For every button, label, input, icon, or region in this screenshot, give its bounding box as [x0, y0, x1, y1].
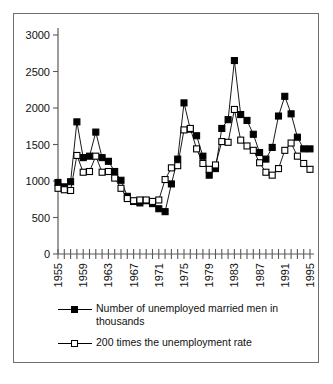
data-point-marker: [168, 165, 174, 171]
data-point-marker: [124, 196, 130, 202]
x-tick-label: 1975: [178, 263, 190, 287]
data-point-marker: [137, 197, 143, 203]
data-point-marker: [225, 117, 231, 123]
data-point-marker: [244, 143, 250, 149]
data-point-marker: [257, 160, 263, 166]
series-1: [55, 58, 313, 215]
data-point-marker: [269, 144, 275, 150]
y-tick-label: 3000: [26, 29, 50, 41]
data-point-marker: [61, 187, 67, 193]
data-point-marker: [150, 198, 156, 204]
data-point-marker: [74, 119, 80, 125]
data-point-marker: [238, 137, 244, 143]
data-point-marker: [263, 156, 269, 162]
series-2: [55, 106, 313, 204]
data-point-marker: [238, 112, 244, 118]
data-point-marker: [206, 172, 212, 178]
data-point-marker: [301, 160, 307, 166]
data-point-marker: [181, 127, 187, 133]
line-chart: 050010001500200025003000 195519591963196…: [14, 14, 320, 298]
data-point-marker: [105, 169, 111, 175]
x-tick-label: 1991: [279, 263, 291, 287]
data-point-marker: [93, 153, 99, 159]
y-tick-label: 500: [32, 212, 50, 224]
data-point-marker: [99, 155, 105, 161]
data-point-marker: [288, 111, 294, 117]
legend-marker-filled-square-icon: [58, 303, 92, 317]
data-point-marker: [213, 162, 219, 168]
data-point-marker: [105, 158, 111, 164]
data-point-marker: [80, 155, 86, 161]
data-point-marker: [219, 139, 225, 145]
data-point-marker: [282, 93, 288, 99]
data-point-marker: [175, 156, 181, 162]
data-point-marker: [112, 169, 118, 175]
data-point-marker: [187, 125, 193, 131]
data-point-marker: [156, 197, 162, 203]
data-point-marker: [294, 134, 300, 140]
x-tick-label: 1955: [52, 263, 64, 287]
figure-frame: 050010001500200025003000 195519591963196…: [13, 13, 319, 363]
chart-plot-area: 050010001500200025003000 195519591963196…: [14, 14, 320, 298]
data-point-marker: [118, 177, 124, 183]
data-point-marker: [231, 58, 237, 64]
data-point-marker: [250, 147, 256, 153]
data-point-marker: [143, 197, 149, 203]
data-point-marker: [206, 166, 212, 172]
data-point-marker: [301, 146, 307, 152]
data-point-marker: [68, 187, 74, 193]
data-point-marker: [307, 166, 313, 172]
data-point-marker: [55, 185, 61, 191]
x-tick-label: 1995: [304, 263, 316, 287]
data-point-marker: [162, 209, 168, 215]
data-point-marker: [263, 169, 269, 175]
data-point-marker: [257, 150, 263, 156]
data-point-marker: [131, 198, 137, 204]
chart-legend: Number of unemployed married men in thou…: [14, 300, 320, 362]
data-point-marker: [244, 117, 250, 123]
data-point-marker: [276, 166, 282, 172]
y-tick-label: 2000: [26, 102, 50, 114]
x-tick-label: 1967: [128, 263, 140, 287]
data-point-marker: [181, 100, 187, 106]
x-tick-label: 1987: [254, 263, 266, 287]
data-point-marker: [118, 185, 124, 191]
x-tick-label: 1979: [203, 263, 215, 287]
y-axis: 050010001500200025003000: [26, 28, 58, 260]
legend-item-series-1: Number of unemployed married men in thou…: [58, 302, 320, 327]
data-point-marker: [194, 133, 200, 139]
data-point-marker: [87, 153, 93, 159]
legend-item-series-2: 200 times the unemployment rate: [58, 336, 252, 351]
legend-marker-open-square-icon: [58, 337, 92, 351]
data-point-marker: [112, 175, 118, 181]
y-tick-label: 1000: [26, 175, 50, 187]
x-tick-label: 1959: [77, 263, 89, 287]
data-point-marker: [276, 113, 282, 119]
data-point-marker: [219, 125, 225, 131]
x-axis: 1955195919631967197119751979198319871991…: [52, 249, 316, 287]
data-point-marker: [162, 177, 168, 183]
data-point-marker: [194, 146, 200, 152]
data-point-marker: [269, 172, 275, 178]
x-tick-label: 1963: [102, 263, 114, 287]
data-point-marker: [175, 163, 181, 169]
y-tick-label: 0: [44, 248, 50, 260]
data-point-marker: [250, 131, 256, 137]
legend-label-series-1: Number of unemployed married men in thou…: [96, 302, 320, 327]
data-point-marker: [55, 179, 61, 185]
data-series-group: [55, 58, 313, 215]
data-point-marker: [200, 160, 206, 166]
data-point-marker: [282, 147, 288, 153]
data-point-marker: [87, 169, 93, 175]
data-point-marker: [288, 140, 294, 146]
data-point-marker: [156, 206, 162, 212]
data-point-marker: [99, 169, 105, 175]
data-point-marker: [231, 106, 237, 112]
data-point-marker: [93, 129, 99, 135]
x-tick-label: 1971: [153, 263, 165, 287]
data-point-marker: [74, 152, 80, 158]
data-point-marker: [307, 146, 313, 152]
y-tick-label: 2500: [26, 66, 50, 78]
data-point-marker: [80, 169, 86, 175]
data-point-marker: [168, 181, 174, 187]
